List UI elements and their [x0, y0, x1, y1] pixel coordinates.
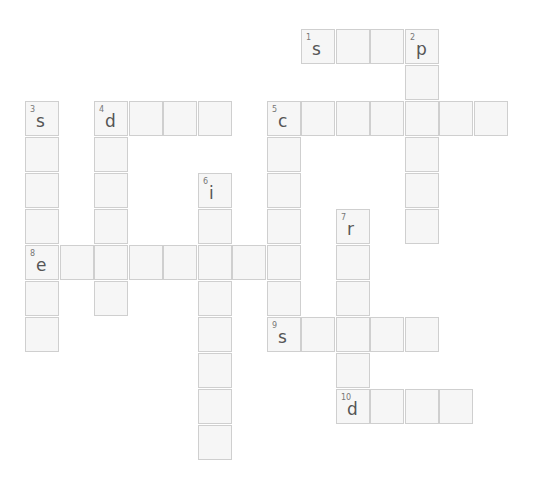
- crossword-cell[interactable]: [198, 425, 232, 460]
- clue-number: 7: [341, 213, 346, 222]
- crossword-cell[interactable]: [94, 209, 128, 244]
- crossword-cell[interactable]: [336, 317, 370, 352]
- cell-letter: d: [105, 111, 116, 131]
- clue-number: 9: [272, 321, 277, 330]
- crossword-cell[interactable]: [25, 209, 59, 244]
- crossword-cell[interactable]: [94, 245, 128, 280]
- crossword-cell[interactable]: 7r: [336, 209, 370, 244]
- clue-number: 3: [30, 105, 35, 114]
- crossword-cell[interactable]: [163, 101, 197, 136]
- crossword-cell[interactable]: [301, 317, 335, 352]
- crossword-cell[interactable]: [474, 101, 508, 136]
- crossword-cell[interactable]: [267, 137, 301, 172]
- crossword-cell[interactable]: [405, 317, 439, 352]
- cell-letter: e: [36, 255, 46, 275]
- crossword-cell[interactable]: [267, 281, 301, 316]
- clue-number: 5: [272, 105, 277, 114]
- cell-letter: c: [278, 111, 287, 131]
- clue-number: 8: [30, 249, 35, 258]
- crossword-cell[interactable]: [336, 29, 370, 64]
- crossword-grid: 1s2p3s8e4d5c9s6i7r10d: [0, 0, 539, 487]
- crossword-cell[interactable]: [198, 389, 232, 424]
- crossword-cell[interactable]: [336, 245, 370, 280]
- clue-number: 4: [99, 105, 104, 114]
- cell-letter: d: [347, 399, 358, 419]
- crossword-cell[interactable]: [94, 173, 128, 208]
- crossword-cell[interactable]: [198, 101, 232, 136]
- crossword-cell[interactable]: 6i: [198, 173, 232, 208]
- crossword-cell[interactable]: [301, 101, 335, 136]
- clue-number: 2: [410, 33, 415, 42]
- crossword-cell[interactable]: [405, 137, 439, 172]
- crossword-cell[interactable]: [163, 245, 197, 280]
- cell-letter: p: [416, 39, 427, 59]
- crossword-cell[interactable]: [267, 245, 301, 280]
- cell-letter: s: [278, 327, 287, 347]
- crossword-cell[interactable]: [405, 209, 439, 244]
- crossword-cell[interactable]: [94, 137, 128, 172]
- crossword-cell[interactable]: [198, 209, 232, 244]
- crossword-cell[interactable]: [370, 389, 404, 424]
- crossword-cell[interactable]: [336, 101, 370, 136]
- crossword-cell[interactable]: [405, 101, 439, 136]
- crossword-cell[interactable]: [267, 173, 301, 208]
- crossword-cell[interactable]: [405, 389, 439, 424]
- crossword-cell[interactable]: 4d: [94, 101, 128, 136]
- crossword-cell[interactable]: 3s: [25, 101, 59, 136]
- crossword-cell[interactable]: [25, 173, 59, 208]
- crossword-cell[interactable]: 5c: [267, 101, 301, 136]
- crossword-cell[interactable]: [25, 281, 59, 316]
- crossword-cell[interactable]: [94, 281, 128, 316]
- crossword-cell[interactable]: [129, 101, 163, 136]
- cell-letter: r: [347, 219, 354, 239]
- crossword-cell[interactable]: 8e: [25, 245, 59, 280]
- clue-number: 1: [306, 33, 311, 42]
- crossword-cell[interactable]: [129, 245, 163, 280]
- crossword-cell[interactable]: [60, 245, 94, 280]
- crossword-cell[interactable]: [198, 317, 232, 352]
- cell-letter: i: [209, 183, 214, 203]
- crossword-cell[interactable]: [25, 317, 59, 352]
- cell-letter: s: [312, 39, 321, 59]
- cell-letter: s: [36, 111, 45, 131]
- crossword-cell[interactable]: [370, 317, 404, 352]
- crossword-cell[interactable]: [336, 353, 370, 388]
- crossword-cell[interactable]: [198, 353, 232, 388]
- crossword-cell[interactable]: [370, 29, 404, 64]
- crossword-cell[interactable]: [370, 101, 404, 136]
- crossword-cell[interactable]: 1s: [301, 29, 335, 64]
- crossword-cell[interactable]: [405, 65, 439, 100]
- crossword-cell[interactable]: [336, 281, 370, 316]
- crossword-cell[interactable]: [232, 245, 266, 280]
- crossword-cell[interactable]: 9s: [267, 317, 301, 352]
- crossword-cell[interactable]: [198, 281, 232, 316]
- crossword-cell[interactable]: [405, 173, 439, 208]
- crossword-cell[interactable]: [439, 101, 473, 136]
- crossword-cell[interactable]: [439, 389, 473, 424]
- crossword-cell[interactable]: [198, 245, 232, 280]
- crossword-cell[interactable]: 10d: [336, 389, 370, 424]
- crossword-cell[interactable]: [25, 137, 59, 172]
- crossword-cell[interactable]: [267, 209, 301, 244]
- crossword-cell[interactable]: 2p: [405, 29, 439, 64]
- clue-number: 6: [203, 177, 208, 186]
